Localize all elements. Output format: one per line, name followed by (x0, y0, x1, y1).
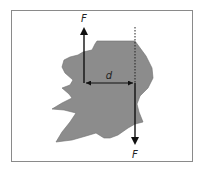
distance-label: d (106, 70, 113, 81)
force-bottom-label: F (132, 149, 138, 160)
torque-diagram: F F d (0, 0, 200, 169)
force-top-label: F (81, 13, 87, 24)
